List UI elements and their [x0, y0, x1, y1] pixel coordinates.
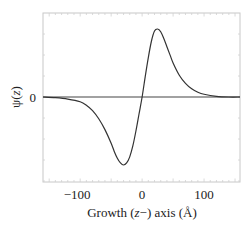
- y-axis-label: ψ(z): [8, 86, 23, 108]
- y-tick-label-0: 0: [30, 90, 37, 105]
- x-axis-label: Growth (z−) axis (Å): [87, 205, 197, 220]
- x-tick-label: 0: [139, 187, 146, 202]
- chart: 0 −1000100 Growth (z−) axis (Å) ψ(z): [0, 0, 252, 232]
- x-tick-label: −100: [64, 187, 91, 202]
- x-tick-label: 100: [194, 187, 214, 202]
- x-tick-labels: −1000100: [64, 187, 214, 202]
